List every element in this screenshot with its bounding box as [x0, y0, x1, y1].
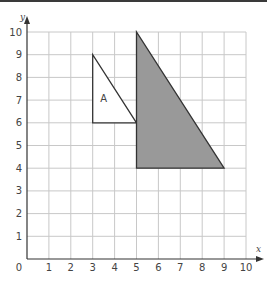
x-tick-label: 0: [16, 262, 22, 273]
x-tick-label: 1: [46, 262, 52, 273]
y-tick-label: 9: [16, 49, 22, 60]
grid-plot: A01234567891012345678910xy: [0, 0, 267, 283]
x-tick-label: 9: [221, 262, 227, 273]
y-tick-label: 5: [16, 140, 22, 151]
y-tick-label: 6: [16, 117, 22, 128]
y-tick-label: 10: [9, 27, 22, 38]
y-tick-label: 2: [16, 208, 22, 219]
x-tick-label: 10: [240, 262, 253, 273]
y-tick-label: 1: [16, 231, 22, 242]
x-tick-label: 6: [155, 262, 161, 273]
x-axis-label: x: [256, 244, 261, 254]
x-tick-label: 7: [177, 262, 183, 273]
x-tick-label: 3: [90, 262, 96, 273]
y-tick-label: 3: [16, 185, 22, 196]
coordinate-grid-diagram: A01234567891012345678910xy: [0, 0, 267, 283]
x-axis-arrow-icon: [256, 256, 264, 262]
x-tick-label: 2: [68, 262, 74, 273]
x-tick-label: 4: [111, 262, 117, 273]
x-tick-label: 8: [199, 262, 205, 273]
y-tick-label: 4: [16, 163, 22, 174]
x-tick-label: 5: [133, 262, 139, 273]
y-tick-label: 8: [16, 72, 22, 83]
shape-label-A: A: [100, 93, 107, 104]
y-axis-label: y: [19, 12, 26, 22]
y-tick-label: 7: [16, 95, 22, 106]
